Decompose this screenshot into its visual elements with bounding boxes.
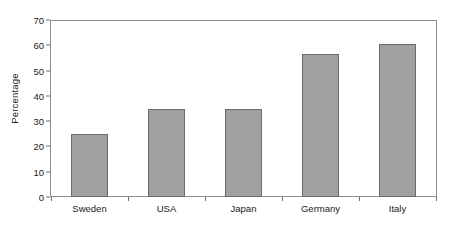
x-axis-tick-mark [51,197,52,201]
y-axis-tick-label: 30 [33,116,44,127]
x-axis-tick-mark [282,197,283,201]
y-axis-title: Percentage [6,0,22,197]
y-axis-tick-label: 10 [33,166,44,177]
bar-slot [359,21,436,197]
bar-slot [51,21,128,197]
bar-germany[interactable] [302,54,340,197]
x-axis-tick-label: Italy [359,203,436,219]
y-axis-tick-label: 40 [33,90,44,101]
bar-japan[interactable] [225,109,263,197]
bar-slot [128,21,205,197]
y-axis-tick-labels: 010203040506070 [22,20,44,197]
x-axis-tick-label: Japan [205,203,282,219]
bar-slot [205,21,282,197]
bar-slot [282,21,359,197]
x-axis-tick-mark [128,197,129,201]
y-axis-tick-label: 70 [33,15,44,26]
x-axis-tick-label: USA [128,203,205,219]
y-axis-tick-label: 20 [33,141,44,152]
bar-chart-figure: Percentage 010203040506070 SwedenUSAJapa… [0,0,453,232]
x-axis-tick-labels: SwedenUSAJapanGermanyItaly [51,203,436,219]
y-axis-tick-label: 0 [39,192,44,203]
y-axis-title-label: Percentage [9,73,20,124]
x-axis-tick-mark [436,197,437,201]
plot-area [51,21,436,197]
x-axis-tick-mark [205,197,206,201]
bar-sweden[interactable] [71,134,109,197]
bar-italy[interactable] [379,44,417,197]
x-axis-tick-marks [51,197,436,201]
x-axis-tick-mark [359,197,360,201]
y-axis-tick-label: 50 [33,65,44,76]
bar-usa[interactable] [148,109,186,197]
y-axis-tick-label: 60 [33,40,44,51]
x-axis-tick-label: Germany [282,203,359,219]
x-axis-tick-label: Sweden [51,203,128,219]
